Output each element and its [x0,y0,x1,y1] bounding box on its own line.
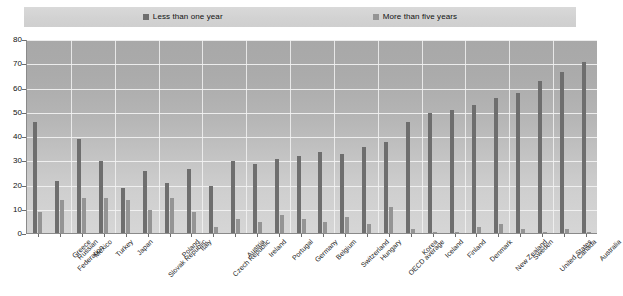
y-axis-tick-mark [22,186,26,187]
bar-group [538,81,547,234]
x-axis-tick-label: Finland [465,238,487,260]
y-axis-tick-label: 20 [13,182,22,190]
bar-less-than-one-year [99,161,103,234]
x-axis-tick-mark [542,234,543,237]
square-swatch-icon [143,14,149,20]
bar-more-than-five-years [345,217,349,234]
x-axis-tick-mark [235,234,236,237]
y-axis-tick-mark [22,113,26,114]
bar-more-than-five-years [104,198,108,234]
x-axis-tick-mark [433,234,434,237]
x-axis-tick-label: Czech Republic [232,238,272,278]
bar-less-than-one-year [209,186,213,235]
x-axis-tick-mark [476,234,477,237]
y-axis-line [26,40,27,234]
x-axis-tick-label: Germany [313,238,339,264]
x-axis-tick-mark [498,234,499,237]
y-axis-tick-mark [22,89,26,90]
bar-group [297,156,306,234]
x-axis-tick-label: Turkey [114,238,134,258]
bar-less-than-one-year [253,164,257,234]
bar-series-container [27,40,597,234]
bar-group [231,161,240,234]
bar-less-than-one-year [318,152,322,234]
x-axis-tick-mark [191,234,192,237]
x-axis-tick-mark [170,234,171,237]
y-axis-tick-label: 70 [13,60,22,68]
bar-less-than-one-year [472,105,476,234]
bar-more-than-five-years [170,198,174,234]
y-axis-tick-label: 10 [13,206,22,214]
bar-group [33,122,42,234]
x-axis-tick-mark [257,234,258,237]
bar-group [165,183,174,234]
bar-group [99,161,108,234]
bar-group [450,110,459,234]
y-axis-tick-label: 50 [13,109,22,117]
bar-less-than-one-year [187,169,191,234]
bar-group [209,186,218,235]
bar-group [340,154,349,234]
x-axis-tick-mark [148,234,149,237]
bar-less-than-one-year [538,81,542,234]
bar-less-than-one-year [406,122,410,234]
bar-group [187,169,196,234]
x-axis-tick-mark [213,234,214,237]
x-axis-tick-label: Denmark [489,238,514,263]
y-axis-tick-label: 30 [13,157,22,165]
x-axis-tick-mark [520,234,521,237]
bar-group [253,164,262,234]
bar-less-than-one-year [231,161,235,234]
bar-more-than-five-years [389,207,393,234]
x-axis-tick-mark [323,234,324,237]
bar-more-than-five-years [236,219,240,234]
y-axis-tick-mark [22,161,26,162]
x-axis-tick-mark [411,234,412,237]
bar-more-than-five-years [302,219,306,234]
x-axis-tick-mark [104,234,105,237]
x-axis-tick-mark [279,234,280,237]
bar-less-than-one-year [165,183,169,234]
bar-less-than-one-year [275,159,279,234]
bar-less-than-one-year [494,98,498,234]
bar-group [428,113,437,234]
bar-group [318,152,327,234]
bar-less-than-one-year [582,62,586,234]
bar-more-than-five-years [192,212,196,234]
chart-legend: Less than one yearMore than five years [24,7,576,27]
y-axis-tick-label: 40 [13,133,22,141]
x-axis-tick-mark [126,234,127,237]
bar-less-than-one-year [297,156,301,234]
x-axis-tick-mark [367,234,368,237]
bar-more-than-five-years [280,215,284,234]
bar-more-than-five-years [82,198,86,234]
bar-less-than-one-year [362,147,366,234]
bar-less-than-one-year [384,142,388,234]
square-swatch-icon [373,14,379,20]
legend-item-1: More than five years [373,13,457,21]
bar-more-than-five-years [60,200,64,234]
bar-less-than-one-year [560,72,564,234]
bar-less-than-one-year [450,110,454,234]
bar-group [121,188,130,234]
bar-group [406,122,415,234]
bar-less-than-one-year [55,181,59,234]
bar-group [275,159,284,234]
bar-less-than-one-year [516,93,520,234]
bar-less-than-one-year [77,139,81,234]
x-axis-tick-mark [389,234,390,237]
bar-group [143,171,152,234]
bar-more-than-five-years [126,200,130,234]
bar-group [494,98,503,234]
x-axis-tick-label: Iceland [443,238,464,259]
legend-label: More than five years [383,13,457,21]
bar-less-than-one-year [143,171,147,234]
x-axis-tick-label: Japan [135,238,154,257]
x-axis-tick-label: Australia [598,238,623,263]
y-axis-tick-mark [22,64,26,65]
x-axis-tick-mark [586,234,587,237]
x-axis-tick-mark [301,234,302,237]
y-axis-tick-mark [22,210,26,211]
x-axis-labels: Russian FederationGreeceMexicoTurkeyJapa… [0,234,600,296]
